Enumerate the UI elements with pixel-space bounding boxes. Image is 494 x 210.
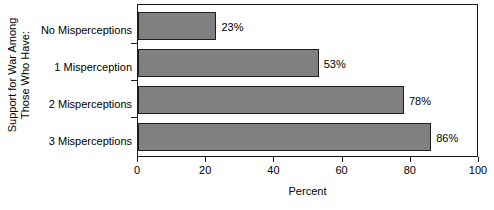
bar-no-misperceptions — [138, 12, 216, 40]
value-label-3: 86% — [436, 132, 458, 144]
category-label-2: 2 Misperceptions — [28, 98, 132, 110]
x-axis-tick-4 — [410, 157, 411, 162]
value-label-1: 53% — [324, 58, 346, 70]
category-axis-labels: No Misperceptions 1 Misperception 2 Misp… — [28, 4, 132, 157]
x-axis-tick-label-0: 0 — [117, 164, 157, 177]
plot-area — [137, 4, 478, 157]
bar-2-misperceptions — [138, 86, 404, 114]
x-axis-tick-label-3: 60 — [322, 164, 362, 177]
x-axis-tick-2 — [273, 157, 274, 162]
value-label-2: 78% — [409, 95, 431, 107]
x-axis-tick-label-1: 20 — [185, 164, 225, 177]
bar-chart: Support for War Among Those Who Have: No… — [0, 0, 494, 210]
category-label-1: 1 Misperception — [28, 61, 132, 73]
x-axis-tick-label-4: 80 — [390, 164, 430, 177]
bar-1-misperception — [138, 49, 319, 77]
x-axis-tick-label-2: 40 — [253, 164, 293, 177]
category-label-3: 3 Misperceptions — [28, 135, 132, 147]
plot-inner — [138, 5, 477, 156]
x-axis-title: Percent — [137, 185, 478, 198]
value-label-0: 23% — [221, 21, 243, 33]
x-axis-tick-5 — [478, 157, 479, 162]
x-axis-tick-label-5: 100 — [458, 164, 494, 177]
x-axis-tick-0 — [137, 157, 138, 162]
category-label-0: No Misperceptions — [28, 24, 132, 36]
x-axis-tick-1 — [205, 157, 206, 162]
x-axis-tick-3 — [342, 157, 343, 162]
bar-3-misperceptions — [138, 123, 431, 151]
y-axis-title-line-1: Support for War Among — [6, 0, 19, 155]
